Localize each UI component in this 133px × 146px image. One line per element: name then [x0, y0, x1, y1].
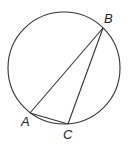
point-a-label: A: [20, 114, 30, 129]
geometry-diagram: A B C: [0, 0, 133, 146]
segment-bc: [68, 28, 103, 124]
point-b-label: B: [104, 11, 113, 26]
point-c-label: C: [63, 127, 73, 142]
segment-ab: [30, 28, 103, 113]
